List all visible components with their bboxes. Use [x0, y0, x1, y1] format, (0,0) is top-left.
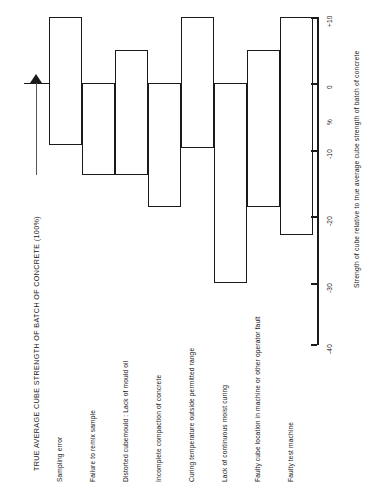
reference-arrow-icon: [30, 74, 42, 83]
bar-faulty-cube-location: [247, 50, 280, 207]
bar-sampling-error: [49, 17, 82, 145]
chart-title: TRUE AVERAGE CUBE STRENGTH OF BATCH OF C…: [32, 216, 41, 471]
category-label-incomplete-compaction: Incomplete compaction of concrete: [155, 375, 162, 482]
value-axis-tick-label: -40: [326, 344, 333, 354]
chart-canvas: +10 0 -10 -20 -30 -40 % Strength of cube…: [0, 0, 366, 492]
category-label-failure-to-remix: Failure to remix sample: [89, 410, 96, 482]
category-label-sampling-error: Sampling error: [56, 437, 63, 482]
value-axis-tick: [311, 283, 317, 285]
category-label-lack-moist-curing: Lack of continuous moist curing: [221, 385, 228, 482]
category-label-faulty-test-machine: Faulty test machine: [287, 422, 294, 482]
bar-faulty-test-machine: [280, 17, 313, 235]
bar-incomplete-compaction: [148, 83, 181, 207]
bar-curing-temperature: [181, 17, 214, 148]
category-label-distorted-cubemould: Distorted cubemould : Lack of mould oil: [122, 361, 129, 482]
value-axis-line: [317, 17, 319, 345]
value-axis-caption: Strength of cube relative to true averag…: [353, 51, 360, 288]
value-axis-tick-label: 0: [326, 85, 333, 89]
plot-area: +10 0 -10 -20 -30 -40 % Strength of cube…: [0, 0, 366, 360]
percent-unit-label: %: [326, 119, 333, 125]
value-axis-tick: [311, 150, 317, 152]
reference-leader-line: [36, 83, 37, 175]
bar-lack-moist-curing: [214, 83, 247, 283]
bar-distorted-cubemould: [115, 50, 148, 175]
category-label-faulty-cube-location: Faulty cube location in machine or other…: [254, 316, 261, 482]
value-axis-tick-label: -30: [326, 283, 333, 293]
value-axis-tick: [311, 17, 317, 19]
value-axis-tick: [311, 344, 317, 346]
bar-failure-to-remix: [82, 83, 115, 175]
value-axis-tick-label: +10: [326, 15, 333, 27]
value-axis-tick-label: -20: [326, 216, 333, 226]
value-axis-tick-label: -10: [326, 149, 333, 159]
category-label-curing-temperature: Curing temperature outside permitted ran…: [188, 348, 195, 482]
value-axis-tick: [311, 216, 317, 218]
value-axis-tick: [311, 83, 317, 85]
